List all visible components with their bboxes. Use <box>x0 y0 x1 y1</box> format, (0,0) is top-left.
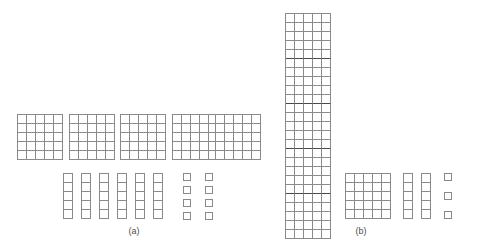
grid-cell <box>225 115 234 124</box>
grid-cell <box>286 203 295 212</box>
grid-cell <box>216 133 225 142</box>
grid-cell <box>45 142 54 151</box>
grid-cell <box>304 14 313 23</box>
grid-cell <box>54 115 63 124</box>
grid-cell <box>173 133 182 142</box>
grid-cell <box>157 142 166 151</box>
grid-cell <box>82 210 91 219</box>
grid-cell <box>373 210 382 219</box>
grid-cell <box>295 131 304 140</box>
grid-cell <box>88 115 97 124</box>
grid-cell <box>154 174 163 183</box>
grid-cell <box>322 77 331 86</box>
grid-cell <box>70 124 79 133</box>
grid-cell <box>422 192 431 201</box>
grid-cell <box>313 230 322 239</box>
grid-cell <box>355 174 364 183</box>
panel-a-unit-cube <box>205 199 213 207</box>
grid-cell <box>216 124 225 133</box>
grid-cell <box>322 113 331 122</box>
grid-cell <box>100 183 109 192</box>
grid-cell <box>355 210 364 219</box>
grid-cell <box>173 151 182 160</box>
panel-a-unit-cube <box>205 173 213 181</box>
grid-cell <box>36 124 45 133</box>
grid-cell <box>88 124 97 133</box>
grid-cell <box>18 151 27 160</box>
grid-cell <box>54 142 63 151</box>
panel-a-flat-3 <box>120 114 166 160</box>
grid-cell <box>355 192 364 201</box>
grid-cell <box>88 142 97 151</box>
grid-cell <box>373 201 382 210</box>
grid-cell <box>36 151 45 160</box>
grid-cell <box>313 68 322 77</box>
grid-cell <box>70 115 79 124</box>
grid-cell <box>304 140 313 149</box>
grid-cell <box>216 142 225 151</box>
grid-cell <box>313 104 322 113</box>
panel-a-flat-1 <box>17 114 63 160</box>
grid-cell <box>304 32 313 41</box>
grid-cell <box>322 131 331 140</box>
panel-a-flat-2 <box>69 114 115 160</box>
grid-cell <box>364 183 373 192</box>
grid-cell <box>322 167 331 176</box>
grid-cell <box>88 151 97 160</box>
grid-cell <box>422 183 431 192</box>
grid-cell <box>382 174 391 183</box>
grid-cell <box>286 149 295 158</box>
panel-b-long-2 <box>421 173 431 219</box>
grid-cell <box>191 115 200 124</box>
grid-cell <box>304 203 313 212</box>
grid-cell <box>322 95 331 104</box>
grid-cell <box>404 183 413 192</box>
grid-cell <box>364 201 373 210</box>
grid-cell <box>346 174 355 183</box>
panel-a-long-2 <box>81 173 91 219</box>
grid-cell <box>304 95 313 104</box>
grid-cell <box>79 151 88 160</box>
grid-cell <box>139 133 148 142</box>
panel-a-long-1 <box>63 173 73 219</box>
grid-cell <box>182 142 191 151</box>
grid-cell <box>304 194 313 203</box>
grid-cell <box>295 122 304 131</box>
grid-cell <box>136 192 145 201</box>
grid-cell <box>286 23 295 32</box>
grid-cell <box>322 185 331 194</box>
grid-cell <box>322 122 331 131</box>
grid-cell <box>295 185 304 194</box>
grid-cell <box>304 230 313 239</box>
grid-cell <box>106 115 115 124</box>
grid-cell <box>216 151 225 160</box>
grid-cell <box>313 140 322 149</box>
grid-cell <box>322 41 331 50</box>
grid-cell <box>136 183 145 192</box>
grid-cell <box>79 142 88 151</box>
panel-a-flat-4 <box>172 114 218 160</box>
grid-cell <box>295 221 304 230</box>
grid-cell <box>139 115 148 124</box>
grid-cell <box>422 210 431 219</box>
grid-cell <box>97 115 106 124</box>
grid-cell <box>364 210 373 219</box>
panel-b-flat-1 <box>345 173 391 219</box>
panel-a-unit-cube <box>183 199 191 207</box>
grid-cell <box>346 183 355 192</box>
grid-cell <box>182 115 191 124</box>
grid-cell <box>286 68 295 77</box>
grid-cell <box>313 50 322 59</box>
grid-cell <box>70 151 79 160</box>
grid-cell <box>304 221 313 230</box>
grid-cell <box>82 192 91 201</box>
grid-cell <box>70 133 79 142</box>
grid-cell <box>295 230 304 239</box>
grid-cell <box>295 14 304 23</box>
grid-cell <box>382 183 391 192</box>
grid-cell <box>304 131 313 140</box>
grid-cell <box>130 115 139 124</box>
grid-cell <box>27 124 36 133</box>
grid-cell <box>313 149 322 158</box>
grid-cell <box>355 201 364 210</box>
